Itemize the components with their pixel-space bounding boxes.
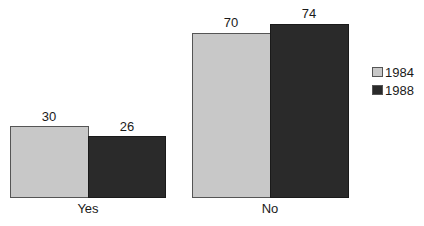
value-label-no-1984: 70 [192,15,270,30]
bar-yes-1984 [10,126,89,198]
bar-no-1988 [270,24,349,198]
legend-item-1988: 1988 [372,81,414,99]
category-label-yes: Yes [10,201,166,216]
value-label-yes-1988: 26 [88,119,166,134]
legend: 1984 1988 [372,63,414,99]
legend-label-1984: 1984 [385,65,414,80]
legend-swatch-1984 [372,67,383,77]
category-label-no: No [192,201,348,216]
legend-swatch-1988 [372,85,383,95]
legend-item-1984: 1984 [372,63,414,81]
bar-chart: 30 26 Yes 70 74 No 1984 1988 [0,0,424,226]
bar-yes-1988 [88,136,166,198]
value-label-yes-1984: 30 [10,109,88,124]
legend-label-1988: 1988 [385,83,414,98]
value-label-no-1988: 74 [270,6,348,21]
bar-no-1984 [192,33,271,198]
